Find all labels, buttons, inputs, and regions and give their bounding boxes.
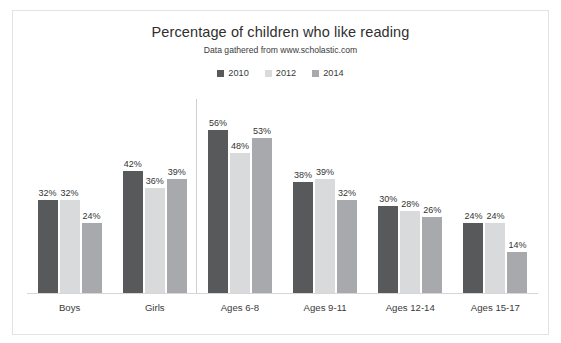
bar-group: 38%39%32% <box>293 179 357 293</box>
bar-item[interactable]: 30% <box>378 206 398 294</box>
bar-value-label: 38% <box>294 170 312 180</box>
bar-item[interactable]: 39% <box>167 179 187 293</box>
bar-item[interactable]: 26% <box>422 217 442 293</box>
bar-item[interactable]: 28% <box>400 211 420 293</box>
bar[interactable] <box>400 211 420 293</box>
bar-item[interactable]: 24% <box>485 223 505 293</box>
bar-item[interactable]: 48% <box>230 153 250 293</box>
plot-area: 32%32%24%42%36%39%56%48%53%38%39%32%30%2… <box>27 93 538 294</box>
legend-label: 2014 <box>323 68 343 78</box>
bar-value-label: 24% <box>464 211 482 221</box>
bar[interactable] <box>378 206 398 294</box>
bar[interactable] <box>293 182 313 293</box>
bar-item[interactable]: 32% <box>38 200 58 293</box>
bar-item[interactable]: 36% <box>145 188 165 293</box>
bar-value-label: 14% <box>508 240 526 250</box>
bar-group: 24%24%14% <box>463 223 527 293</box>
bar-value-label: 32% <box>39 188 57 198</box>
x-axis-label-ages-12-14: Ages 12-14 <box>386 302 435 313</box>
bar-item[interactable]: 24% <box>463 223 483 293</box>
bar-item[interactable]: 38% <box>293 182 313 293</box>
x-axis-tick-labels: BoysGirlsAges 6-8Ages 9-11Ages 12-14Ages… <box>27 302 538 320</box>
bar[interactable] <box>252 138 272 293</box>
bar-item[interactable]: 14% <box>507 252 527 293</box>
x-axis-label-ages-9-11: Ages 9-11 <box>304 302 347 313</box>
bar-value-label: 36% <box>146 176 164 186</box>
bar[interactable] <box>123 171 143 294</box>
chart-title: Percentage of children who like reading <box>13 24 548 40</box>
bar[interactable] <box>38 200 58 293</box>
chart-legend: 2010 2012 2014 <box>13 68 548 78</box>
legend-swatch-icon <box>265 70 272 77</box>
bar-value-label: 24% <box>83 211 101 221</box>
x-axis-label-girls: Girls <box>145 302 165 313</box>
bar-item[interactable]: 53% <box>252 138 272 293</box>
bar-value-label: 28% <box>401 199 419 209</box>
legend-swatch-icon <box>312 70 319 77</box>
bar-value-label: 30% <box>379 194 397 204</box>
x-axis-label-ages-15-17: Ages 15-17 <box>471 302 520 313</box>
bar-value-label: 42% <box>124 159 142 169</box>
chart-container: Percentage of children who like reading … <box>12 10 549 335</box>
bar-item[interactable]: 42% <box>123 171 143 294</box>
bar-item[interactable]: 39% <box>315 179 335 293</box>
legend-label: 2010 <box>228 68 248 78</box>
bar[interactable] <box>463 223 483 293</box>
bar-item[interactable]: 56% <box>208 130 228 293</box>
bar[interactable] <box>208 130 228 293</box>
bar-value-label: 39% <box>168 167 186 177</box>
bar-value-label: 53% <box>253 126 271 136</box>
bar[interactable] <box>60 200 80 293</box>
bar-value-label: 32% <box>61 188 79 198</box>
bar-value-label: 32% <box>338 188 356 198</box>
bar-group: 32%32%24% <box>38 200 102 293</box>
bar-group: 30%28%26% <box>378 206 442 294</box>
category-separator-line <box>196 99 197 294</box>
bar-item[interactable]: 32% <box>337 200 357 293</box>
x-axis-line <box>27 293 538 294</box>
x-axis-label-ages-6-8: Ages 6-8 <box>221 302 259 313</box>
bar[interactable] <box>337 200 357 293</box>
legend-item-2010: 2010 <box>217 68 248 78</box>
bar-item[interactable]: 24% <box>82 223 102 293</box>
bar-value-label: 56% <box>209 118 227 128</box>
bar[interactable] <box>230 153 250 293</box>
bar[interactable] <box>422 217 442 293</box>
bar[interactable] <box>315 179 335 293</box>
bar-value-label: 48% <box>231 141 249 151</box>
bar-item[interactable]: 32% <box>60 200 80 293</box>
bar[interactable] <box>485 223 505 293</box>
bar[interactable] <box>82 223 102 293</box>
legend-swatch-icon <box>217 70 224 77</box>
bar[interactable] <box>167 179 187 293</box>
x-axis-label-boys: Boys <box>59 302 80 313</box>
bar-value-label: 24% <box>486 211 504 221</box>
legend-item-2014: 2014 <box>312 68 343 78</box>
legend-item-2012: 2012 <box>265 68 296 78</box>
bar[interactable] <box>507 252 527 293</box>
bar-value-label: 39% <box>316 167 334 177</box>
legend-label: 2012 <box>276 68 296 78</box>
chart-subtitle: Data gathered from www.scholastic.com <box>13 45 548 55</box>
bar[interactable] <box>145 188 165 293</box>
bar-group: 42%36%39% <box>123 171 187 294</box>
bar-group: 56%48%53% <box>208 130 272 293</box>
bar-value-label: 26% <box>423 205 441 215</box>
